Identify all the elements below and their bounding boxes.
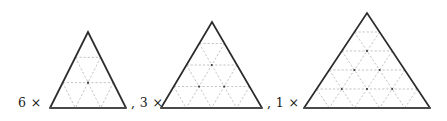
lattice-vertex-dot xyxy=(87,82,89,84)
lattice-vertex-dot xyxy=(379,69,381,71)
lattice-vertex-dot xyxy=(391,88,393,90)
lattice-vertex-dot xyxy=(198,85,200,87)
lattice-vertex-dot xyxy=(341,88,343,90)
triangular-lattice-figure: 6 × , 3 × , 1 × xyxy=(0,0,447,121)
multiplier-label-3: , 1 × xyxy=(267,95,299,110)
lattice-vertex-dots xyxy=(87,82,89,84)
figure-background xyxy=(0,0,447,121)
figure-container: 6 × , 3 × , 1 × xyxy=(0,0,447,121)
lattice-vertex-dot xyxy=(211,64,213,66)
lattice-vertex-dot xyxy=(366,50,368,52)
lattice-vertex-dot xyxy=(223,85,225,87)
multiplier-label-2: , 3 × xyxy=(131,95,163,110)
multiplier-label-1: 6 × xyxy=(18,95,42,110)
lattice-vertex-dot xyxy=(353,69,355,71)
lattice-vertex-dot xyxy=(366,88,368,90)
